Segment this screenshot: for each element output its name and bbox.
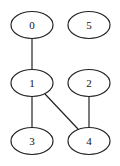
node-4: 4 (68, 128, 110, 155)
node-1: 1 (11, 70, 53, 97)
node-label: 5 (86, 19, 92, 31)
node-0: 0 (11, 12, 53, 39)
node-label: 1 (29, 77, 35, 89)
edge-1-4 (45, 94, 78, 129)
node-3: 3 (11, 128, 53, 155)
graph-diagram: 0 5 1 2 3 4 (0, 0, 120, 166)
node-label: 2 (86, 77, 92, 89)
node-2: 2 (68, 70, 110, 97)
node-label: 4 (86, 135, 92, 147)
nodes: 0 5 1 2 3 4 (11, 12, 110, 155)
node-5: 5 (68, 12, 110, 39)
node-label: 3 (29, 135, 35, 147)
node-label: 0 (29, 19, 35, 31)
